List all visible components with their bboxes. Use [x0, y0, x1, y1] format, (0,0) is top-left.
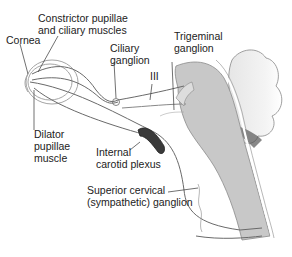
- carotid-label-1: Internal: [96, 146, 131, 158]
- dilator-label-2: pupillae: [34, 140, 70, 152]
- carotid-plexus-shape: [138, 128, 165, 154]
- constrictor-label-1: Constrictor pupillae: [38, 12, 128, 24]
- cervical-ganglion-shape: [198, 184, 202, 232]
- cn3-label: III: [150, 70, 159, 82]
- cervical-label-1: Superior cervical: [87, 184, 165, 196]
- carotid-label-2: carotid plexus: [96, 158, 161, 170]
- dilator-label-3: muscle: [34, 152, 67, 164]
- trigeminal-label-1: Trigeminal: [174, 30, 223, 42]
- cornea-label: Cornea: [6, 34, 40, 46]
- trigeminal-label-2: ganglion: [174, 42, 214, 54]
- ciliary-label-2: ganglion: [110, 54, 150, 66]
- constrictor-label-2: and ciliary muscles: [38, 24, 127, 36]
- dilator-label-1: Dilator: [34, 128, 64, 140]
- cervical-label-2: (sympathetic) ganglion: [87, 196, 193, 208]
- ciliary-ganglion-node: [113, 99, 120, 106]
- ciliary-label-1: Ciliary: [110, 42, 139, 54]
